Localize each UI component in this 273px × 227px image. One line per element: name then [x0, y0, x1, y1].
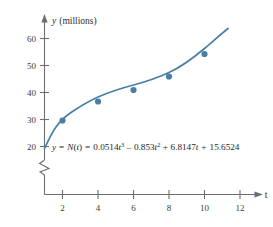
x-axis-title: t — [265, 190, 268, 200]
x-tick-label-12: 12 — [236, 203, 245, 213]
regression-equation-label: y=N(t)=0.0514t3–0.853t2+6.8147t+15.6524 — [51, 141, 240, 152]
y-tick-label-50: 50 — [27, 61, 37, 71]
y-axis-title-unit: (millions) — [59, 16, 96, 27]
equation-linear-variable: t — [196, 142, 199, 152]
x-tick-label-8: 8 — [167, 203, 172, 213]
y-tick-label-40: 40 — [27, 88, 37, 98]
y-axis-title: y(millions) — [51, 16, 97, 27]
equation-quadratic-coefficient: 0.853 — [134, 142, 155, 152]
regression-curve — [45, 29, 229, 149]
y-tick-label-30: 30 — [27, 115, 37, 125]
y-axis-arrowhead — [41, 14, 47, 23]
x-tick-label-4: 4 — [96, 203, 101, 213]
y-axis-title-variable: y — [51, 16, 57, 26]
x-tick-labels-group: 2 4 6 8 10 12 — [60, 203, 244, 213]
equation-cubic-coefficient: 0.0514 — [93, 142, 119, 152]
x-axis-arrowhead — [255, 191, 264, 197]
equation-cubic-exponent: 3 — [121, 141, 124, 148]
equation-plus-operator-1: + — [163, 142, 168, 152]
x-tick-label-6: 6 — [131, 203, 136, 213]
data-point — [130, 87, 136, 93]
data-point — [166, 73, 172, 79]
data-point — [201, 51, 207, 57]
equation-minus-operator: – — [126, 142, 132, 152]
x-tick-label-10: 10 — [200, 203, 210, 213]
data-points-group — [59, 51, 207, 124]
y-tick-labels-group: 60 50 40 30 20 — [27, 34, 37, 152]
y-tick-label-60: 60 — [27, 34, 37, 44]
x-tick-label-2: 2 — [60, 203, 65, 213]
equation-constant-term: 15.6524 — [210, 142, 240, 152]
data-point — [95, 98, 101, 104]
equation-lhs: y — [51, 142, 57, 152]
y-axis-break-icon — [40, 160, 50, 175]
figure-container: 60 50 40 30 20 2 4 6 8 10 12 y(millions) — [0, 0, 273, 227]
data-point — [59, 117, 65, 123]
equation-equals-1: = — [59, 142, 64, 152]
equation-quadratic-exponent: 2 — [157, 141, 160, 148]
equation-paren-close: ) — [79, 142, 82, 152]
equation-linear-coefficient: 6.8147 — [171, 142, 197, 152]
chart-canvas: 60 50 40 30 20 2 4 6 8 10 12 y(millions) — [0, 0, 273, 227]
y-tick-label-20: 20 — [27, 142, 37, 152]
equation-equals-2: = — [85, 142, 90, 152]
axes-group — [40, 14, 264, 198]
equation-plus-operator-2: + — [201, 142, 206, 152]
